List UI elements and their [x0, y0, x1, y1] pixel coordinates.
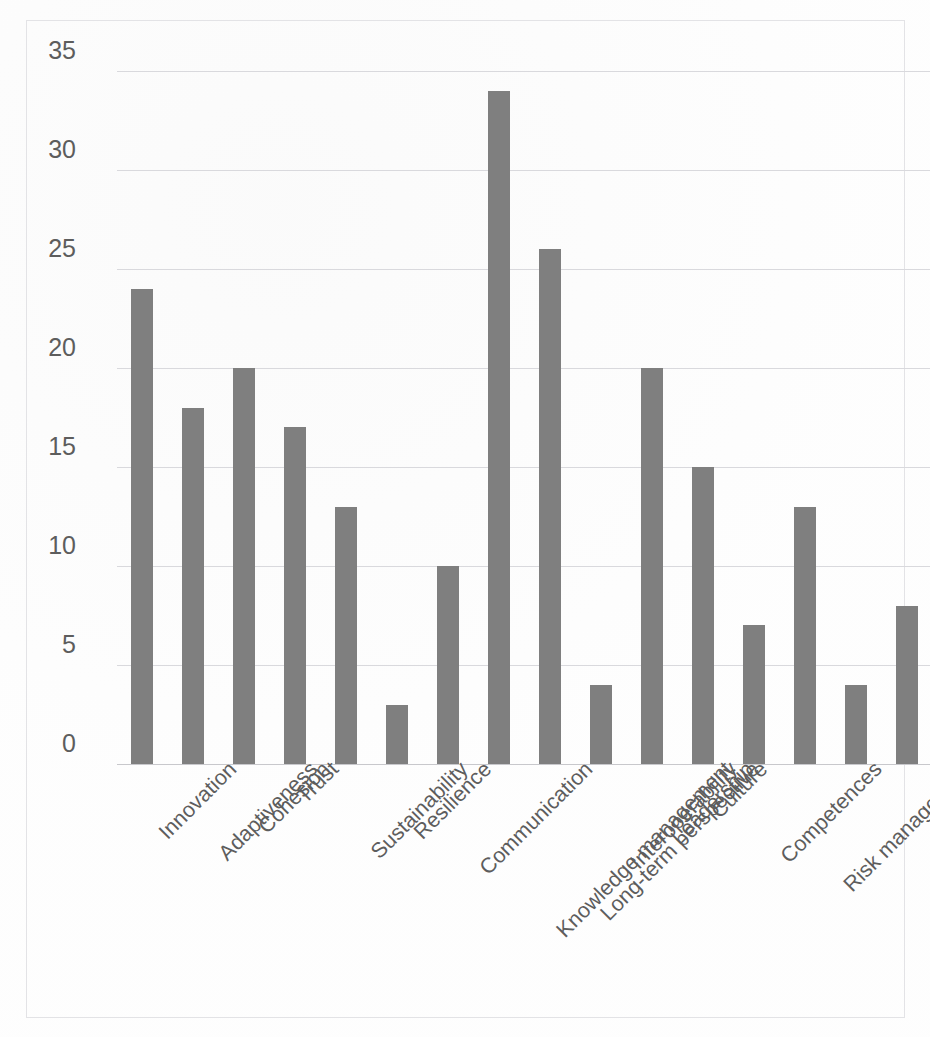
bar[interactable]	[692, 467, 714, 764]
axis-baseline	[117, 764, 930, 765]
y-axis-tick-label: 25	[20, 234, 76, 263]
y-axis-tick-label: 15	[20, 432, 76, 461]
gridline	[117, 71, 930, 72]
y-axis: 05101520253035	[14, 50, 76, 743]
y-axis-tick-label: 5	[20, 630, 76, 659]
chart-frame	[26, 20, 905, 1018]
bar[interactable]	[182, 408, 204, 764]
bar[interactable]	[794, 507, 816, 764]
bar[interactable]	[590, 685, 612, 764]
y-axis-tick-label: 10	[20, 531, 76, 560]
bar[interactable]	[743, 625, 765, 764]
y-axis-tick-label: 35	[20, 36, 76, 65]
bar[interactable]	[386, 705, 408, 764]
y-axis-tick-label: 0	[20, 729, 76, 758]
bar[interactable]	[488, 91, 510, 764]
bar[interactable]	[335, 507, 357, 764]
chart-page: 05101520253035 InnovationAdaptivenessCoh…	[0, 0, 930, 1037]
bar[interactable]	[437, 566, 459, 764]
bar[interactable]	[284, 427, 306, 764]
bar[interactable]	[131, 289, 153, 764]
plot-area	[117, 71, 930, 764]
bar[interactable]	[845, 685, 867, 764]
bar[interactable]	[233, 368, 255, 764]
y-axis-tick-label: 30	[20, 135, 76, 164]
y-axis-tick-label: 20	[20, 333, 76, 362]
bar[interactable]	[896, 606, 918, 764]
bar[interactable]	[539, 249, 561, 764]
bar[interactable]	[641, 368, 663, 764]
gridline	[117, 170, 930, 171]
gridline	[117, 269, 930, 270]
